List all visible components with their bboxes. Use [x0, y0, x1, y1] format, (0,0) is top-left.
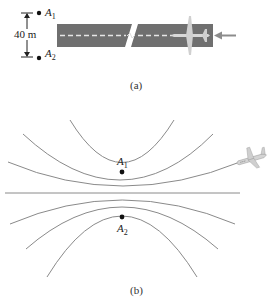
caption-b: (b): [130, 284, 143, 297]
hyperbola-lower-3: [10, 200, 235, 224]
point-a2-dot-b: [120, 215, 125, 220]
point-a2-label-b: A2: [116, 222, 128, 237]
part-a: 40 m A1 A2 (a): [14, 6, 236, 92]
dimension-marker: 40 m: [14, 13, 37, 57]
point-a2-label: A2: [44, 47, 56, 62]
airplane-side-icon: [233, 143, 269, 173]
point-a1-dot: [37, 11, 41, 15]
caption-a: (a): [130, 79, 143, 92]
diagram-canvas: 40 m A1 A2 (a): [0, 0, 279, 304]
airplane-icon: [171, 16, 210, 55]
point-a1-dot-b: [120, 170, 125, 175]
part-b: A1 A2 (b): [5, 120, 269, 297]
point-a1-label-b: A1: [116, 155, 128, 170]
distance-label: 40 m: [14, 28, 37, 40]
approach-arrow-icon: [214, 32, 236, 40]
point-a2-dot: [37, 56, 41, 60]
point-a1-label: A1: [44, 6, 56, 21]
